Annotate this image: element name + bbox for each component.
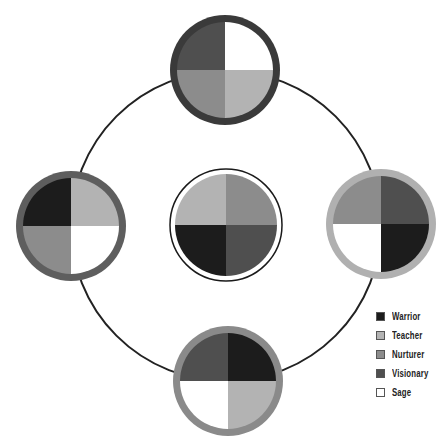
quadrant-nurturer <box>23 226 71 274</box>
quadrant-sage <box>333 224 381 272</box>
node-left <box>16 171 126 281</box>
legend: Warrior Teacher Nurturer Visionary Sage <box>376 307 439 402</box>
quadrant-visionary <box>381 176 429 224</box>
quadrant-visionary <box>226 225 277 276</box>
legend-item-warrior: Warrior <box>376 307 439 326</box>
legend-label: Teacher <box>392 330 422 341</box>
quadrant-warrior <box>228 333 276 381</box>
quadrant-teacher <box>175 174 226 225</box>
legend-label: Nurturer <box>392 349 424 360</box>
quadrant-visionary <box>177 22 225 70</box>
quadrant-warrior <box>23 178 71 226</box>
quadrant-nurturer <box>226 174 277 225</box>
quadrant-teacher <box>228 381 276 429</box>
visionary-swatch <box>376 369 385 378</box>
quadrant-sage <box>225 22 273 70</box>
nurturer-swatch <box>376 350 385 359</box>
teacher-swatch <box>376 331 385 340</box>
quadrant-teacher <box>71 178 119 226</box>
sage-swatch <box>376 388 385 397</box>
quadrant-sage <box>71 226 119 274</box>
node-center <box>170 169 282 281</box>
legend-label: Warrior <box>392 311 421 322</box>
legend-label: Visionary <box>392 368 428 379</box>
legend-item-teacher: Teacher <box>376 326 439 345</box>
quadrant-sage <box>180 381 228 429</box>
quadrant-warrior <box>381 224 429 272</box>
quadrant-teacher <box>225 70 273 118</box>
legend-item-visionary: Visionary <box>376 364 439 383</box>
node-top <box>170 15 280 125</box>
legend-label: Sage <box>392 387 411 398</box>
warrior-swatch <box>376 312 385 321</box>
node-bottom <box>173 326 283 436</box>
quadrant-nurturer <box>333 176 381 224</box>
legend-item-nurturer: Nurturer <box>376 345 439 364</box>
quadrant-visionary <box>180 333 228 381</box>
quadrant-nurturer <box>177 70 225 118</box>
quadrant-warrior <box>175 225 226 276</box>
node-right <box>326 169 436 279</box>
legend-item-sage: Sage <box>376 383 439 402</box>
